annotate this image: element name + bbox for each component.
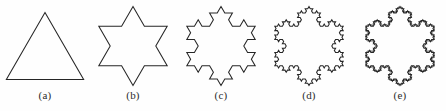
- koch-iteration-4-drawing: [357, 4, 443, 88]
- figure-panel-d: (d): [266, 0, 352, 111]
- koch-iteration-1-drawing: [90, 4, 176, 88]
- koch-path-a: [6, 13, 83, 80]
- figure-panel-a: (a): [2, 0, 88, 111]
- koch-iteration-3-drawing: [266, 4, 352, 88]
- figure-panel-b: (b): [90, 0, 176, 111]
- koch-path-d: [275, 7, 343, 86]
- koch-svg-d: [266, 4, 352, 88]
- koch-svg-c: [178, 4, 264, 88]
- figure-panel-c: (c): [178, 0, 264, 111]
- koch-path-c: [187, 7, 255, 86]
- panel-label-e: (e): [357, 89, 443, 101]
- koch-svg-a: [2, 4, 88, 88]
- koch-svg-b: [90, 4, 176, 88]
- koch-svg-e: [357, 4, 443, 88]
- panel-label-b: (b): [90, 89, 176, 101]
- panel-label-a: (a): [2, 89, 88, 101]
- koch-snowflake-figure: (a) (b) (c) (d) (e): [0, 0, 446, 111]
- koch-path-b: [99, 7, 167, 86]
- panel-label-c: (c): [178, 89, 264, 101]
- koch-path-e: [366, 7, 434, 86]
- figure-panel-e: (e): [357, 0, 443, 111]
- panel-label-d: (d): [266, 89, 352, 101]
- koch-iteration-2-drawing: [178, 4, 264, 88]
- koch-iteration-0-drawing: [2, 4, 88, 88]
